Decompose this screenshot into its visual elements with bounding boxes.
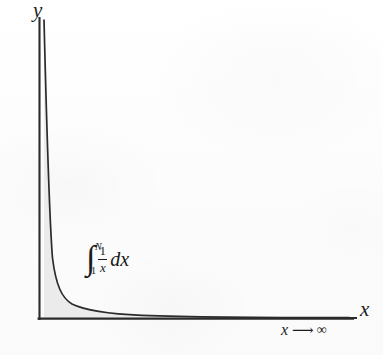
integral-upper-limit: N	[95, 242, 102, 252]
limit-variable: x	[281, 322, 288, 338]
fraction-denominator: x	[99, 261, 107, 275]
plot-area	[0, 0, 383, 355]
integral-expression: ∫ N 1 1 x dx	[86, 240, 129, 278]
differential-dx: dx	[110, 249, 129, 269]
annotation-rule	[281, 317, 357, 319]
limit-annotation: x ⟶ ∞	[281, 322, 327, 338]
x-axis-label: x	[360, 299, 369, 320]
infinity-icon: ∞	[317, 323, 327, 337]
y-axis-label: y	[33, 0, 42, 21]
integral-lower-limit: 1	[91, 266, 96, 276]
right-arrow-icon: ⟶	[292, 323, 313, 338]
integral-sign-group: ∫ N 1	[86, 240, 95, 278]
figure-canvas: y x ∫ N 1 1 x dx x ⟶ ∞	[0, 0, 383, 355]
